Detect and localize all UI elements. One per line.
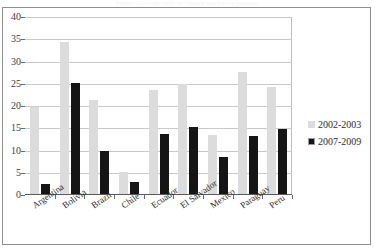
x-axis-tick-mark — [114, 195, 115, 199]
plot-area — [25, 17, 292, 195]
bar — [267, 87, 276, 195]
y-axis-tick-mark — [21, 62, 25, 63]
y-axis-tick-mark — [21, 17, 25, 18]
bar — [238, 72, 247, 195]
bar — [89, 100, 98, 195]
figure-caption: Figure: Coverage rates by country and pe… — [0, 0, 375, 7]
y-axis-tick-mark — [21, 84, 25, 85]
gridline — [25, 17, 292, 18]
y-axis-tick-label: 20 — [3, 101, 21, 111]
bar — [149, 90, 158, 195]
legend-item[interactable]: 2002-2003 — [308, 116, 374, 133]
gridline — [25, 39, 292, 40]
y-axis-tick-label: 0 — [3, 190, 21, 200]
bar — [178, 84, 187, 195]
y-axis-tick-label: 40 — [3, 12, 21, 22]
x-axis-tick-mark — [292, 195, 293, 199]
y-axis-tick-label: 35 — [3, 34, 21, 44]
legend-item[interactable]: 2007-2009 — [308, 133, 374, 150]
bar — [119, 172, 128, 195]
bar — [189, 127, 198, 195]
bar — [160, 134, 169, 195]
legend-swatch-icon — [308, 121, 315, 128]
figure-frame: 0510152025303540 ArgentinaBoliviaBrazilC… — [2, 7, 371, 245]
bar — [249, 136, 258, 195]
y-axis-tick-label: 25 — [3, 79, 21, 89]
y-axis-tick-mark — [21, 39, 25, 40]
bar — [60, 42, 69, 195]
bar — [100, 151, 109, 195]
chart-legend: 2002-20032007-2009 — [308, 116, 374, 150]
bar — [71, 83, 80, 195]
category-label: Peru — [268, 194, 287, 211]
y-axis-tick-label: 10 — [3, 146, 21, 156]
y-axis-tick-label: 15 — [3, 123, 21, 133]
bar — [30, 107, 39, 195]
y-axis-tick-label: 5 — [3, 168, 21, 178]
y-axis-tick-label: 30 — [3, 57, 21, 67]
y-axis-tick-mark — [21, 173, 25, 174]
y-axis-tick-mark — [21, 151, 25, 152]
legend-swatch-icon — [308, 138, 315, 145]
legend-label: 2007-2009 — [318, 137, 361, 147]
bar — [278, 129, 287, 195]
y-axis-tick-mark — [21, 128, 25, 129]
y-axis-tick-mark — [21, 195, 25, 196]
legend-label: 2002-2003 — [318, 120, 361, 130]
x-axis-tick-mark — [144, 195, 145, 199]
y-axis-tick-mark — [21, 106, 25, 107]
